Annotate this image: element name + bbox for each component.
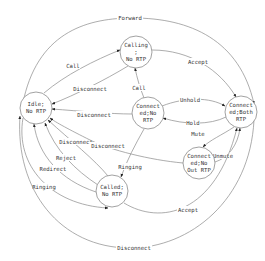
state-connected-both-rtp: Connect ed;Both RTP [225,96,257,128]
edge-label-disconnect-2: Disconnect [77,112,111,118]
edge-ringing-idle-called: Ringing [22,118,108,208]
edge-mute: Mute [191,127,234,147]
state-conn-no-out-line1: Connect [187,153,211,159]
edge-label-disconnect-4: Disconnect [91,143,125,149]
state-connected-no-rtp: Connect ed;No RTP [132,97,164,129]
state-called-line1: Called; [100,184,124,190]
edge-ringing-conn-called: Ringing [117,129,144,177]
edge-label-accept: Accept [188,59,208,66]
state-idle-line1: Idle; [28,101,45,107]
edge-call-conn-calling: Call [132,68,146,98]
edge-label-call-2: Call [132,85,145,91]
state-connected-no-out-rtp: Connect ed;No Out RTP [183,147,215,179]
state-conn-no-rtp-line1: Connect [136,103,160,109]
edge-label-reject: Reject [56,155,76,162]
state-conn-both-line1: Connect [229,102,253,108]
state-idle-line2: No RTP [26,108,47,114]
edge-label-ringing: Ringing [118,164,142,171]
state-calling-line3: No RTP [126,56,147,62]
state-called-line2: No RTP [102,191,123,197]
edge-label-disconnect-3: Disconnect [59,139,93,145]
edge-unhold: Unhold [162,96,225,106]
edge-label-hold: Hold [186,120,199,126]
edge-label-accept-2: Accept [178,207,198,214]
edge-hold: Hold [163,117,226,126]
state-called: Called; No RTP [96,175,128,207]
state-calling: Calling ; No RTP [120,36,152,68]
state-conn-both-line3: RTP [236,116,247,122]
state-diagram: Forward Call Accept Disconnect Call Disc… [0,0,265,261]
edge-disconnect-calling-idle: Disconnect [52,66,128,104]
edge-label-unhold: Unhold [180,97,200,103]
edge-reject: Reject [45,123,98,185]
edge-label-forward: Forward [118,15,142,21]
state-calling-line2: ; [134,49,137,55]
edge-accept-called-both: Accept [124,128,237,214]
edge-label-call: Call [66,63,79,69]
state-conn-no-out-line3: Out RTP [187,167,211,173]
state-conn-no-rtp-line2: ed;No [140,110,157,116]
edge-disconnect-conn-idle: Disconnect [52,109,132,118]
edge-label-disconnect-5: Disconnect [117,245,151,251]
state-idle: Idle; No RTP [20,92,52,124]
edge-label-ringing-2: Ringing [32,184,56,191]
edge-label-redirect: Redirect [40,166,67,172]
state-conn-both-line2: ed;Both [229,109,253,115]
edge-label-mute: Mute [191,131,205,137]
state-calling-line1: Calling [124,42,148,49]
state-conn-no-rtp-line3: RTP [143,117,154,123]
edge-label-disconnect: Disconnect [73,86,107,92]
edge-label-unmute: Unmute [213,153,234,159]
edge-accept-calling-both: Accept [152,50,236,97]
state-conn-no-out-line2: ed;No [191,160,208,166]
